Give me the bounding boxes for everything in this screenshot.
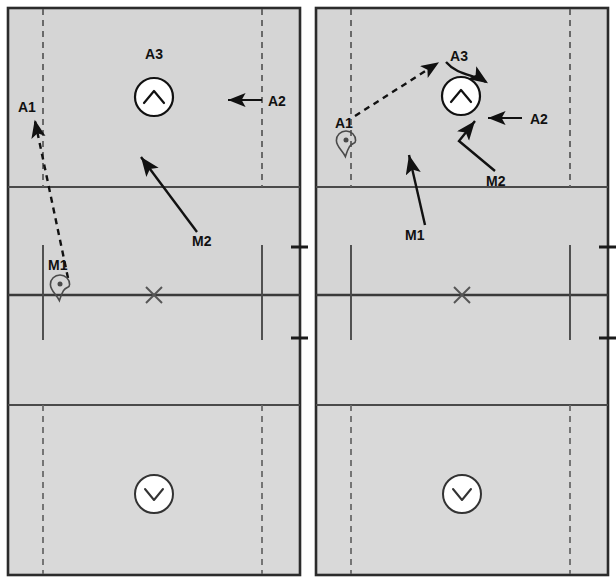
label-a2: A2 xyxy=(530,111,548,127)
label-a1: A1 xyxy=(18,99,36,115)
right-court-diagram: A3 A2 A1 M2 M1 xyxy=(308,0,616,587)
label-m1: M1 xyxy=(405,227,425,243)
diagram-root: A3 A2 A1 M2 M1 xyxy=(0,0,616,587)
player-circle-a3 xyxy=(442,77,480,115)
left-court-diagram: A3 A2 A1 M2 M1 xyxy=(0,0,308,587)
court-zone-back-near xyxy=(8,295,300,405)
label-a3: A3 xyxy=(145,46,163,62)
right-court-svg: A3 A2 A1 M2 M1 xyxy=(308,0,616,587)
label-a1: A1 xyxy=(335,115,353,131)
label-m2: M2 xyxy=(192,233,212,249)
court-zone-back-near xyxy=(316,295,608,405)
label-a2: A2 xyxy=(268,93,286,109)
left-court-svg: A3 A2 A1 M2 M1 xyxy=(0,0,308,587)
label-m2: M2 xyxy=(486,173,506,189)
player-circle-a3 xyxy=(135,78,173,116)
label-a3: A3 xyxy=(450,48,468,64)
label-m1: M1 xyxy=(48,257,68,273)
player-circle-opponent xyxy=(135,475,173,513)
player-circle-opponent xyxy=(443,475,481,513)
